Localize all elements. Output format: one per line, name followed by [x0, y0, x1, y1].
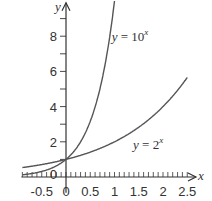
x-tick-label: 0.5 [81, 184, 99, 199]
x-tick-label: 0 [62, 184, 69, 199]
x-tick-label: 2.5 [178, 184, 196, 199]
x-tick-label: 2 [159, 184, 166, 199]
y-tick-label: 8 [50, 29, 57, 44]
curve-label: y = 2x [131, 135, 163, 152]
y-tick-label: 6 [50, 64, 57, 79]
curve-label: y = 10x [110, 27, 149, 44]
x-axis-label: x [197, 168, 204, 183]
curve-2x [22, 77, 187, 167]
exponential-chart: -0.500.511.522.524680xyy = 10xy = 2x [0, 0, 212, 201]
y-axis-label: y [53, 0, 61, 14]
axes [21, 3, 196, 193]
plot-area: -0.500.511.522.524680xyy = 10xy = 2x [0, 0, 212, 201]
x-tick-label: 1 [111, 184, 118, 199]
y-tick-label: 2 [50, 135, 57, 150]
labels: -0.500.511.522.524680xyy = 10xy = 2x [31, 0, 204, 199]
y-tick-label: 4 [50, 100, 57, 115]
origin-label: 0 [50, 167, 57, 182]
x-tick-label: 1.5 [130, 184, 148, 199]
curves [22, 1, 187, 175]
x-tick-label: -0.5 [31, 184, 53, 199]
